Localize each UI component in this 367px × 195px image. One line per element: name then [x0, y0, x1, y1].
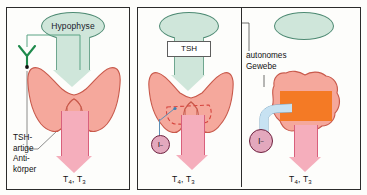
hormone-output-arrow-stem — [181, 115, 205, 155]
iodide-leader-diagonal — [157, 107, 179, 123]
hormone-output-arrow-stem — [294, 125, 318, 157]
hormone-output-arrow-head — [56, 156, 92, 173]
panel-2: TSH I− T4, T3 — [137, 7, 241, 188]
iodide-circle-icon: I− — [151, 135, 170, 154]
tsh-label: TSH — [181, 44, 197, 53]
iodide-charge: − — [160, 142, 164, 148]
antibody-label: TSH- artige Anti- körper — [13, 133, 53, 175]
panel-3: autonomes Gewebe — [242, 7, 359, 188]
hormone-output-arrow-head — [176, 155, 208, 170]
pituitary-ellipse — [159, 12, 219, 40]
panel-1: Hypophyse TSH- artig — [6, 7, 128, 188]
hormone-output-arrow-head — [289, 157, 321, 172]
t4-subscript: 4 — [294, 179, 298, 185]
t3-subscript: 3 — [82, 179, 86, 185]
iodide-circle-icon: I− — [249, 129, 273, 153]
t3-subscript: 3 — [308, 179, 312, 185]
t4-subscript: 4 — [68, 179, 72, 185]
thyroid-regulation-figure: Hypophyse TSH- artig — [0, 0, 367, 195]
hormone-output-label: T4, T3 — [172, 174, 195, 184]
t3-subscript: 3 — [191, 179, 195, 185]
iodide-charge: − — [261, 138, 265, 144]
tsh-label-box: TSH — [167, 41, 211, 57]
hormone-output-label: T4, T3 — [289, 174, 312, 184]
hormone-output-label: T4, T3 — [63, 174, 86, 184]
t4-subscript: 4 — [177, 179, 181, 185]
hormone-output-arrow-stem — [61, 111, 89, 156]
